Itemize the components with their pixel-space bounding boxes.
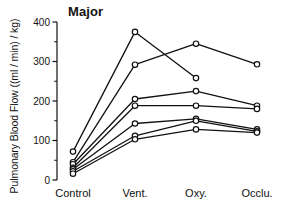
data-point-subject-7 [132,137,137,142]
series-line-subject-3 [73,91,257,164]
y-tick-label-group: 0100200300400 [33,17,50,186]
data-point-subject-7 [70,171,75,176]
data-point-subject-3 [132,96,137,101]
chart-figure: Pulmonary Blood Flow ((ml / min) / kg) M… [0,0,291,220]
data-point-subject-3 [193,88,198,93]
data-point-subject-7 [254,130,259,135]
x-tick-label-1: Vent. [122,187,147,199]
x-tick-label-2: Oxy. [185,187,207,199]
y-tick-label: 200 [33,96,50,107]
data-point-subject-7 [193,127,198,132]
y-tick-label: 0 [44,175,50,186]
data-point-subject-2 [254,62,259,67]
x-tick-label-3: Occlu. [241,187,272,199]
series-line-group [73,32,257,174]
data-point-subject-4 [132,103,137,108]
y-tick-label: 400 [33,17,50,28]
data-point-subject-4 [254,106,259,111]
data-point-subject-2 [193,41,198,46]
y-tick-label: 100 [33,135,50,146]
data-point-subject-6 [193,118,198,123]
y-tick-label: 300 [33,56,50,67]
y-tick-mark-group [53,22,58,180]
data-point-subject-5 [132,121,137,126]
data-point-subject-1 [193,75,198,80]
data-point-subject-2 [132,62,137,67]
data-point-subject-1 [132,29,137,34]
data-point-subject-4 [193,103,198,108]
series-line-subject-6 [73,121,257,172]
x-tick-label-group: ControlVent.Oxy.Occlu. [55,187,272,199]
x-tick-label-0: Control [55,187,90,199]
series-line-subject-2 [73,44,257,163]
data-point-subject-1 [70,149,75,154]
plot-canvas: 0100200300400 ControlVent.Oxy.Occlu. [0,0,291,220]
